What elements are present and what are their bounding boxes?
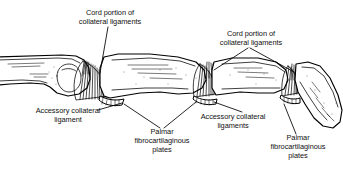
label-accessory-collateral-right: Accessory collateral ligaments [201,112,266,130]
label-palmar-plates-right: Palmar fibrocartilaginous plates [271,133,326,160]
anatomy-illustration: Cord portion of collateral ligaments Cor… [0,0,343,170]
label-palmar-plates-left: Palmar fibrocartilaginous plates [135,127,190,154]
leader-palmar-right [284,104,296,134]
label-accessory-right-line1: Accessory collateral [201,112,266,121]
leader-palmar-left-b [164,102,196,128]
label-palmar-right-line3: plates [288,151,308,160]
leader-palmar-left-a [124,104,160,128]
label-accessory-collateral-left: Accessory collateral ligament [36,106,101,124]
distal-phalanx-bone [295,62,342,128]
palmar-fibrocartilaginous-plate-dip [280,95,300,104]
metacarpal-bone [0,55,90,96]
label-accessory-left-line1: Accessory collateral [36,106,101,115]
proximal-phalanx-bone [100,54,206,98]
label-cord-left-line1: Cord portion of [86,8,135,17]
label-palmar-left-line3: plates [152,145,172,154]
label-palmar-right-line2: fibrocartilaginous [271,142,326,151]
label-cord-right-line1: Cord portion of [227,29,276,38]
label-accessory-left-line2: ligament [54,115,82,124]
label-palmar-left-line2: fibrocartilaginous [135,136,190,145]
label-accessory-right-line2: ligaments [217,121,249,130]
label-palmar-left-line1: Palmar [150,127,174,136]
leader-accessory-right [214,102,242,112]
label-palmar-right-line1: Palmar [286,133,310,142]
label-cord-left-line2: collateral ligaments [79,17,142,26]
anatomy-figure: Cord portion of collateral ligaments Cor… [0,0,343,170]
label-cord-portion-right: Cord portion of collateral ligaments [220,29,283,47]
palmar-fibrocartilaginous-plate-pip [193,96,217,105]
label-cord-portion-left: Cord portion of collateral ligaments [79,8,142,26]
label-cord-right-line2: collateral ligaments [220,38,283,47]
